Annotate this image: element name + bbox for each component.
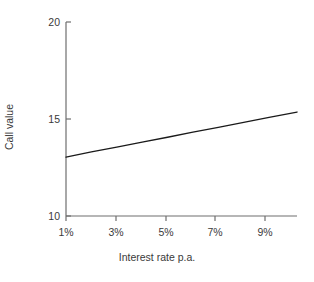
x-tick-label-3pct: 3% bbox=[99, 227, 133, 238]
x-axis-title: Interest rate p.a. bbox=[0, 252, 314, 263]
y-tick-label-20: 20 bbox=[34, 17, 60, 28]
data-line-call-value bbox=[66, 112, 297, 157]
x-tick-label-1pct: 1% bbox=[49, 227, 83, 238]
y-tick-label-15: 15 bbox=[34, 114, 60, 125]
x-tick-label-7pct: 7% bbox=[198, 227, 232, 238]
x-tick-label-9pct: 9% bbox=[248, 227, 282, 238]
y-tick-label-10: 10 bbox=[34, 211, 60, 222]
x-tick-label-5pct: 5% bbox=[149, 227, 183, 238]
plot-area bbox=[0, 0, 314, 282]
y-axis-title: Call value bbox=[4, 77, 15, 177]
chart-figure: 20 15 10 1% 3% 5% 7% 9% Interest rate p.… bbox=[0, 0, 314, 282]
